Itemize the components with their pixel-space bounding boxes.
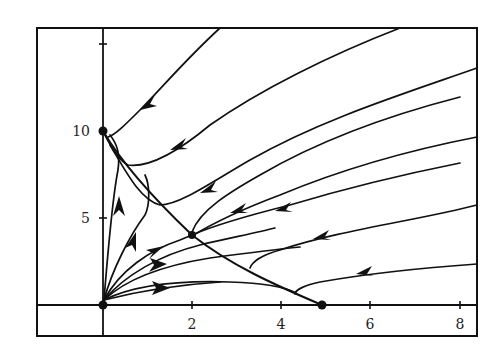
trajectory [192, 163, 460, 235]
arrow-icon [275, 202, 293, 212]
y-tick-label: 5 [81, 210, 90, 226]
trajectories-origin [104, 135, 300, 300]
x-tick-label: 8 [456, 316, 465, 332]
x-tick-label: 2 [188, 316, 197, 332]
trajectory [110, 68, 477, 205]
x-tick-labels: 2 4 6 8 [188, 316, 465, 332]
arrow-icon [125, 232, 136, 252]
y-tick-label: 10 [72, 123, 90, 139]
arrow-icon [140, 95, 157, 110]
arrow-icon [113, 196, 125, 216]
arrow-icon [230, 203, 248, 213]
phase-portrait: 2 4 6 8 5 10 [0, 0, 504, 355]
arrow-icon [313, 230, 331, 240]
trajectory [105, 28, 400, 165]
x-tick-label: 4 [277, 316, 286, 332]
trajectory [192, 137, 477, 236]
arrow-icon [200, 181, 218, 193]
equilibrium-origin [99, 301, 108, 310]
trajectory [250, 205, 477, 268]
arrow-icon [146, 246, 164, 259]
x-tick-label: 6 [366, 316, 375, 332]
equilibrium-y-intercept [99, 127, 108, 136]
trajectory [108, 28, 220, 137]
equilibrium-x-intercept [318, 301, 327, 310]
y-tick-labels: 5 10 [72, 123, 90, 226]
trajectories-upper [105, 28, 477, 294]
equilibrium-interior [188, 231, 196, 239]
trajectory [295, 264, 477, 294]
